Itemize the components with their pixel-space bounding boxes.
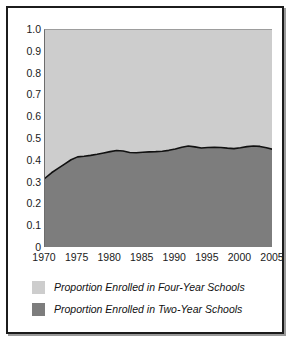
y-tick-label: 0.8 — [11, 68, 41, 78]
x-tick-label: 1990 — [157, 251, 191, 263]
y-tick-label: 0.9 — [11, 46, 41, 56]
y-tick-label: 0.2 — [11, 198, 41, 208]
legend-swatch-two-year-icon — [32, 303, 45, 316]
chart-legend: Proportion Enrolled in Four-Year Schools… — [32, 276, 272, 320]
x-tick-label: 2000 — [222, 251, 256, 263]
x-tick-label: 1980 — [92, 251, 126, 263]
y-axis: 1.00.90.80.70.60.50.40.30.20.10 — [8, 29, 41, 247]
area-two-year-schools — [45, 146, 272, 247]
legend-swatch-four-year-icon — [32, 281, 45, 294]
chart-figure: 1.00.90.80.70.60.50.40.30.20.10 19701975… — [6, 6, 284, 334]
area-chart-svg — [45, 30, 272, 247]
plot-wrapper — [44, 29, 272, 247]
legend-item-two-year: Proportion Enrolled in Two-Year Schools — [32, 298, 272, 320]
x-tick-label: 2005 — [255, 251, 289, 263]
y-tick-label: 1.0 — [11, 24, 41, 34]
y-tick-label: 0.5 — [11, 133, 41, 143]
y-tick-label: 0.4 — [11, 155, 41, 165]
y-tick-label: 0.1 — [11, 220, 41, 230]
x-axis: 19701975198019851990199520002005 — [44, 251, 272, 265]
y-tick-label: 0.3 — [11, 177, 41, 187]
legend-label-four-year: Proportion Enrolled in Four-Year Schools — [54, 281, 245, 293]
x-tick-label: 1995 — [190, 251, 224, 263]
legend-item-four-year: Proportion Enrolled in Four-Year Schools — [32, 276, 272, 298]
y-tick-label: 0.7 — [11, 89, 41, 99]
x-tick-label: 1975 — [60, 251, 94, 263]
x-tick-label: 1985 — [125, 251, 159, 263]
legend-label-two-year: Proportion Enrolled in Two-Year Schools — [54, 303, 242, 315]
y-tick-label: 0.6 — [11, 111, 41, 121]
plot-area — [44, 29, 272, 247]
x-tick-label: 1970 — [27, 251, 61, 263]
